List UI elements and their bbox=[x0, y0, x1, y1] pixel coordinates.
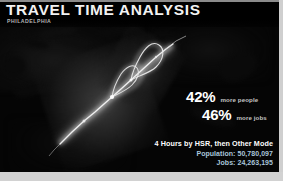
scenario-population: Population: 50,780,097 bbox=[154, 149, 273, 158]
page-subtitle-city: PHILADELPHIA bbox=[7, 18, 51, 24]
scenario-mode-label: 4 Hours by HSR, then Other Mode bbox=[154, 139, 273, 149]
stat-label-people: more people bbox=[220, 96, 258, 103]
header-band: TRAVEL TIME ANALYSIS PHILADELPHIA bbox=[0, 0, 279, 27]
stat-label-jobs: more jobs bbox=[236, 114, 266, 121]
travel-time-analysis-screenshot: TRAVEL TIME ANALYSIS PHILADELPHIA 42% mo… bbox=[0, 0, 283, 181]
stat-row-jobs: 46% more jobs bbox=[186, 106, 279, 123]
map-canvas[interactable]: TRAVEL TIME ANALYSIS PHILADELPHIA 42% mo… bbox=[0, 0, 279, 172]
map-top-border bbox=[0, 0, 279, 2]
stat-row-people: 42% more people bbox=[186, 88, 279, 105]
scenario-summary: 4 Hours by HSR, then Other Mode Populati… bbox=[154, 139, 273, 167]
page-title: TRAVEL TIME ANALYSIS bbox=[6, 1, 201, 18]
stat-value-people: 42% bbox=[186, 88, 215, 105]
stats-panel: 42% more people 46% more jobs bbox=[186, 88, 279, 124]
bottom-frame-strip bbox=[0, 172, 283, 181]
stat-value-jobs: 46% bbox=[202, 106, 231, 123]
map-right-border bbox=[279, 0, 283, 172]
scenario-jobs: Jobs: 24,263,195 bbox=[154, 158, 273, 167]
